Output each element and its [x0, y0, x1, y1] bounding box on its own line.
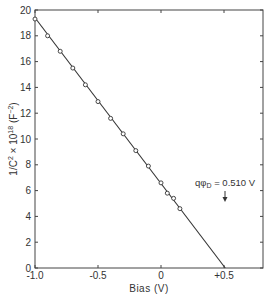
- y-tick-label: 8: [25, 159, 31, 170]
- data-point: [96, 100, 100, 104]
- x-tick-label: +0.5: [214, 270, 234, 281]
- data-point: [134, 149, 138, 153]
- x-axis-title: Bias (V): [129, 283, 169, 294]
- y-axis-title: 1/C2 × 1018 (F−2): [7, 102, 19, 175]
- data-point: [146, 164, 150, 168]
- x-tick-label: -1.0: [26, 270, 44, 281]
- y-tick-label: 18: [20, 30, 32, 41]
- data-point: [165, 191, 169, 195]
- y-tick-label: 4: [25, 211, 31, 222]
- annotation-text: qφD = 0.510 V: [195, 177, 256, 189]
- x-axis-ticks: -1.0-0.50+0.5: [26, 10, 234, 281]
- y-tick-label: 12: [20, 108, 32, 119]
- y-tick-label: 16: [20, 56, 32, 67]
- x-tick-label: 0: [158, 270, 164, 281]
- data-point: [46, 34, 50, 38]
- data-point: [58, 49, 62, 53]
- x-tick-label: -0.5: [89, 270, 107, 281]
- plot-border: [35, 10, 263, 268]
- plot-frame: [35, 10, 263, 268]
- chart-svg: 02468101214161820 -1.0-0.50+0.5 Bias (V)…: [0, 0, 268, 297]
- data-point: [33, 17, 37, 21]
- data-point: [71, 66, 75, 70]
- arrow-down-icon: [223, 191, 228, 202]
- y-tick-label: 10: [20, 134, 32, 145]
- annotation: qφD = 0.510 V: [195, 177, 256, 202]
- y-tick-label: 20: [20, 5, 32, 16]
- data-point: [109, 116, 113, 120]
- y-tick-label: 6: [25, 185, 31, 196]
- data-point: [121, 132, 125, 136]
- data-point: [178, 207, 182, 211]
- data-point: [83, 83, 87, 87]
- fit-line: [35, 18, 225, 268]
- y-tick-label: 2: [25, 237, 31, 248]
- data-point: [159, 181, 163, 185]
- data-point: [172, 196, 176, 200]
- y-tick-label: 14: [20, 82, 32, 93]
- y-axis-ticks: 02468101214161820: [20, 5, 263, 274]
